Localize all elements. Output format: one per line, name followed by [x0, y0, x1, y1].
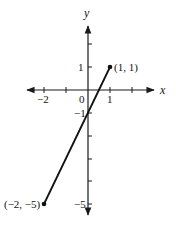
- point-label-end: (1, 1): [114, 61, 138, 74]
- y-tick-label-neg1: −1: [74, 107, 86, 119]
- line-segment: [44, 67, 110, 204]
- origin-label: 0: [79, 93, 85, 105]
- x-tick-label-neg2: −2: [37, 93, 49, 105]
- y-tick-label-neg5: −5: [74, 198, 86, 210]
- y-tick-label-1: 1: [78, 61, 84, 73]
- x-axis-label: x: [159, 83, 166, 97]
- x-tick-label-1: 1: [107, 93, 113, 105]
- point-label-start: (−2, −5): [4, 198, 41, 211]
- endpoint-start: [42, 202, 47, 207]
- endpoint-end: [108, 65, 113, 70]
- y-axis-label: y: [83, 6, 90, 20]
- coordinate-plane: y x −2 0 1 1 −1 −5 (1, 1) (−2, −5): [0, 0, 176, 230]
